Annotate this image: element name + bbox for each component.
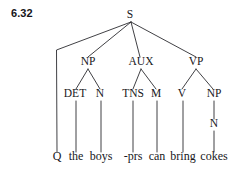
- node-m: M: [151, 87, 161, 99]
- syntax-tree-figure: 6.32: [0, 0, 249, 171]
- branch-s-to-np: [88, 22, 131, 57]
- branch-vp-to-np: [196, 69, 213, 89]
- node-n-subject: N: [96, 87, 105, 99]
- terminal-can: can: [149, 149, 166, 163]
- node-n-object: N: [210, 117, 219, 129]
- node-tns: TNS: [122, 87, 144, 99]
- terminal-row: Q the boys -prs can bring cokes: [53, 149, 228, 163]
- terminal-prs: -prs: [124, 149, 143, 163]
- branches-from-np-subject: [76, 69, 100, 89]
- branches-from-vp: [182, 69, 213, 89]
- branch-np-to-n: [88, 69, 100, 89]
- branches-to-terminals: [76, 101, 214, 152]
- node-s: S: [127, 8, 133, 20]
- branch-aux-to-tns: [133, 69, 141, 89]
- terminal-boys: boys: [90, 149, 113, 163]
- terminal-bring: bring: [170, 149, 195, 163]
- branch-s-to-aux: [131, 22, 140, 57]
- node-v: V: [178, 87, 187, 99]
- node-aux: AUX: [129, 55, 155, 67]
- branch-s-to-vp: [131, 22, 196, 57]
- branch-aux-to-m: [141, 69, 156, 89]
- terminal-the: the: [69, 149, 84, 163]
- node-np-object: NP: [207, 87, 222, 99]
- node-vp: VP: [189, 55, 204, 67]
- branches-from-aux: [133, 69, 156, 89]
- branch-np-to-det: [76, 69, 88, 89]
- tree-diagram-canvas: S NP AUX VP DET N TNS M V NP N Q the boy…: [0, 0, 249, 171]
- terminal-cokes: cokes: [200, 149, 228, 163]
- terminal-q: Q: [53, 149, 62, 163]
- node-np-subject: NP: [81, 55, 96, 67]
- branch-vp-to-v: [182, 69, 196, 89]
- node-det: DET: [64, 87, 86, 99]
